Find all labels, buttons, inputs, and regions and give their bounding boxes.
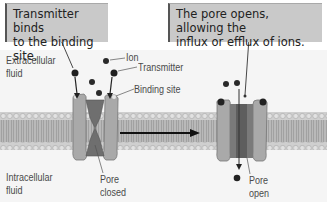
label-intracellular-fluid: fluid [6, 185, 23, 197]
label-pore-closed-2: closed [100, 187, 126, 199]
callout-transmitter-binds: Transmitter binds to the binding site. [5, 3, 108, 42]
lipid-bilayer [0, 112, 327, 150]
label-ion: Ion [126, 52, 139, 64]
label-pore-open-2: open [249, 188, 269, 200]
callout-pore-opens: The pore opens, allowing the influx or e… [168, 3, 322, 42]
label-binding-site: Binding site [134, 84, 181, 96]
ion-channel-diagram: Transmitter binds to the binding site. T… [0, 0, 327, 202]
label-intracellular: Intracellular [6, 172, 53, 184]
callout-right-line1: The pore opens, allowing the [176, 7, 316, 35]
label-transmitter: Transmitter [138, 62, 183, 74]
label-pore-closed: Pore [100, 174, 119, 186]
callout-left-line1: Transmitter binds [13, 7, 102, 35]
label-pore-open: Pore [249, 175, 268, 187]
callout-right-line2: influx or efflux of ions. [176, 35, 316, 49]
label-extracellular: Extracellular [6, 55, 56, 67]
open-channel [217, 99, 267, 162]
label-extracellular-fluid: fluid [6, 68, 23, 80]
closed-channel [73, 94, 118, 160]
